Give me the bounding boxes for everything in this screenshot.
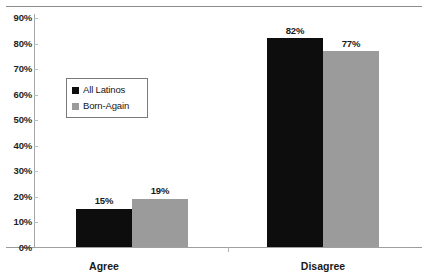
x-axis-category-divider-tick (228, 247, 229, 252)
y-tick-label-0: 0% (2, 243, 32, 253)
legend-label-all-latinos: All Latinos (83, 85, 125, 95)
y-tick-label-70: 70% (2, 64, 32, 74)
x-axis-category-label-agree: Agree (76, 261, 132, 272)
y-tick-label-60: 60% (2, 90, 32, 100)
y-tick-label-40: 40% (2, 141, 32, 151)
legend: All Latinos Born-Again (66, 78, 148, 118)
legend-item-all-latinos[interactable]: All Latinos (72, 82, 143, 98)
y-axis-line (34, 14, 35, 248)
y-tick-label-90: 90% (2, 13, 32, 23)
chart-top-border (6, 6, 422, 7)
y-tick-label-30: 30% (2, 167, 32, 177)
y-tick-label-80: 80% (2, 39, 32, 49)
data-label-disagree-all-latinos: 82% (267, 26, 323, 36)
y-tick-label-50: 50% (2, 115, 32, 125)
legend-item-born-again[interactable]: Born-Again (72, 98, 143, 114)
x-axis-category-label-disagree: Disagree (288, 261, 358, 272)
bar-disagree-all-latinos[interactable] (267, 38, 323, 247)
data-label-agree-all-latinos: 15% (76, 196, 132, 206)
bar-chart: 90% 80% 70% 60% 50% 40% 30% 20% 10% 0% 1… (0, 0, 428, 279)
data-label-agree-born-again: 19% (132, 186, 188, 196)
legend-swatch-icon-born-again (72, 103, 79, 110)
y-tick-label-20: 20% (2, 192, 32, 202)
y-axis-tick-labels: 90% 80% 70% 60% 50% 40% 30% 20% 10% 0% (0, 0, 32, 279)
x-axis-line (34, 247, 415, 248)
data-label-disagree-born-again: 77% (323, 39, 379, 49)
legend-label-born-again: Born-Again (83, 101, 129, 111)
bar-disagree-born-again[interactable] (323, 51, 379, 247)
y-tick-label-10: 10% (2, 218, 32, 228)
legend-swatch-icon-all-latinos (72, 87, 79, 94)
bar-agree-born-again[interactable] (132, 199, 188, 247)
bar-agree-all-latinos[interactable] (76, 209, 132, 247)
